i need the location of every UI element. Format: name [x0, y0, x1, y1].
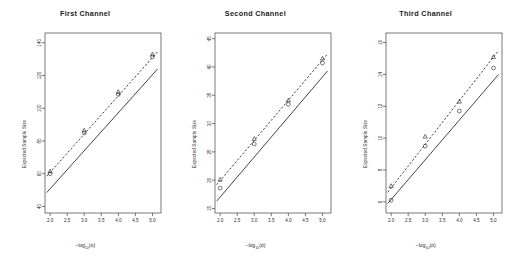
x-tick-label: 2.5	[405, 218, 412, 223]
series-line-dashed	[217, 54, 328, 185]
y-tick-label: 100	[37, 104, 42, 112]
plot-area: 4060801001201402.02.53.03.54.04.55.0	[0, 0, 170, 264]
x-tick-label: 2.5	[234, 218, 241, 223]
x-tick-label: 4.0	[456, 218, 463, 223]
plot-frame	[386, 33, 502, 213]
x-tick-label: 3.5	[98, 218, 105, 223]
x-tick-label: 5.0	[149, 218, 156, 223]
x-tick-label: 2.0	[388, 218, 395, 223]
series-line-solid	[387, 74, 498, 203]
y-tick-label: 15	[207, 205, 212, 211]
series-line-dashed	[47, 52, 158, 176]
plot-area: 152025303540452.02.53.03.54.04.55.0	[170, 0, 340, 264]
x-tick-label: 4.5	[473, 218, 480, 223]
y-tick-label: 45	[207, 36, 212, 42]
y-tick-label: 8	[377, 168, 382, 171]
data-point-circle	[151, 55, 155, 59]
y-tick-label: 40	[37, 203, 42, 209]
x-tick-label: 5.0	[320, 218, 327, 223]
data-point-triangle	[423, 134, 427, 138]
y-tick-label: 120	[37, 71, 42, 79]
data-point-triangle	[457, 99, 461, 103]
data-point-circle	[219, 186, 223, 190]
x-tick-label: 3.0	[422, 218, 429, 223]
y-tick-label: 6	[377, 200, 382, 203]
y-tick-label: 14	[377, 71, 382, 77]
x-tick-label: 2.0	[47, 218, 54, 223]
data-point-circle	[253, 142, 257, 146]
x-tick-label: 3.5	[439, 218, 446, 223]
plot-area: 68101214162.02.53.03.54.04.55.0	[341, 0, 511, 264]
y-tick-label: 12	[377, 103, 382, 109]
data-point-circle	[491, 66, 495, 70]
x-tick-label: 4.0	[285, 218, 292, 223]
y-tick-label: 35	[207, 92, 212, 98]
y-tick-label: 10	[377, 135, 382, 141]
y-tick-label: 140	[37, 39, 42, 47]
y-tick-label: 60	[37, 171, 42, 177]
x-tick-label: 3.0	[81, 218, 88, 223]
data-point-circle	[457, 109, 461, 113]
x-tick-label: 4.0	[115, 218, 122, 223]
chart-panel-3: Third ChannelExpected Sample Size−log10(…	[341, 0, 511, 264]
y-tick-label: 40	[207, 64, 212, 70]
x-tick-label: 3.0	[251, 218, 258, 223]
x-tick-label: 4.5	[132, 218, 139, 223]
chart-panel-1: First ChannelExpected Sample Size−log10(…	[0, 0, 170, 264]
figure-canvas: First ChannelExpected Sample Size−log10(…	[0, 0, 511, 264]
series-line-solid	[217, 71, 328, 201]
series-line-dashed	[387, 51, 498, 193]
y-tick-label: 25	[207, 149, 212, 155]
chart-panel-2: Second ChannelExpected Sample Size−log10…	[170, 0, 340, 264]
x-tick-label: 3.5	[268, 218, 275, 223]
x-tick-label: 5.0	[490, 218, 497, 223]
y-tick-label: 16	[377, 40, 382, 46]
series-line-solid	[47, 69, 158, 193]
plot-frame	[45, 33, 161, 213]
y-tick-label: 20	[207, 177, 212, 183]
x-tick-label: 4.5	[303, 218, 310, 223]
plot-frame	[215, 33, 331, 213]
data-point-circle	[287, 102, 291, 106]
x-tick-label: 2.5	[64, 218, 71, 223]
x-tick-label: 2.0	[217, 218, 224, 223]
data-point-circle	[321, 61, 325, 65]
y-tick-label: 80	[37, 138, 42, 144]
y-tick-label: 30	[207, 121, 212, 127]
